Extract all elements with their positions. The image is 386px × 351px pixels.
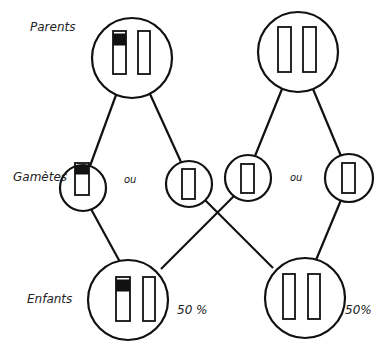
- line-gamete-1-to-child-left: [91, 209, 120, 262]
- cell-circle: [88, 260, 168, 340]
- cell-parent-left: [92, 18, 172, 98]
- cell-circle: [325, 154, 373, 202]
- label-or-right: ou: [290, 172, 302, 183]
- label-or-left: ou: [124, 174, 136, 185]
- chromosome-band: [113, 34, 126, 46]
- chromosome-band: [75, 166, 89, 175]
- cell-parent-right: [258, 12, 338, 92]
- cell-circle: [258, 12, 338, 92]
- cell-child-right: [265, 258, 345, 338]
- cell-circle: [92, 18, 172, 98]
- label-parents: Parents: [30, 20, 75, 34]
- cell-circle: [265, 258, 345, 338]
- cell-nodes: [60, 12, 373, 340]
- cell-circle: [225, 155, 271, 201]
- line-parent-right-to-gamete-3: [255, 89, 282, 156]
- label-percent-left: 50 %: [177, 303, 208, 317]
- cell-child-left: [88, 260, 168, 340]
- label-children: Enfants: [27, 292, 72, 306]
- cell-circle: [166, 161, 212, 207]
- cell-gamete-3: [225, 155, 271, 201]
- cell-gamete-4: [325, 154, 373, 202]
- label-gametes: Gamètes: [13, 170, 67, 184]
- line-parent-left-to-gamete-2: [150, 94, 181, 162]
- line-parent-right-to-gamete-4: [313, 89, 341, 156]
- line-parent-left-to-gamete-1: [90, 95, 116, 166]
- label-percent-right: 50%: [345, 303, 372, 317]
- chromosome-band: [116, 280, 130, 292]
- line-gamete-2-to-child-right: [205, 200, 273, 268]
- cell-gamete-2: [166, 161, 212, 207]
- line-gamete-4-to-child-right: [316, 200, 341, 260]
- line-gamete-3-to-child-left: [161, 196, 234, 269]
